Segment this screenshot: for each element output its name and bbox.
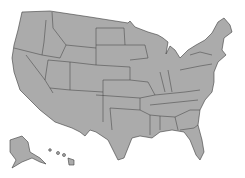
us-states-map [0,0,245,178]
hawaii [49,149,74,165]
alaska [10,136,46,168]
